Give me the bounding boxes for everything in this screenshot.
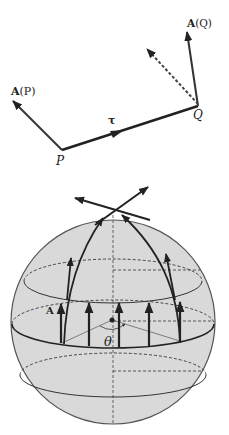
top-vector-diagram: A(P) A(Q) P Q τ — [10, 17, 212, 168]
label-Q: Q — [193, 108, 203, 122]
vector-A-P — [13, 101, 62, 150]
label-theta: θ — [104, 334, 112, 349]
sphere-diagram: A θ — [11, 187, 215, 424]
tau-arrowhead-icon — [110, 130, 124, 138]
label-A-sphere: A — [45, 305, 54, 316]
vector-A-Q — [187, 32, 198, 106]
label-A-P: A(P) — [10, 85, 36, 98]
label-A-Q: A(Q) — [186, 17, 212, 29]
sphere-center-dot — [110, 318, 115, 323]
vector-tau — [62, 106, 198, 150]
label-P: P — [55, 154, 65, 168]
parallel-transport-figure: A(P) A(Q) P Q τ — [0, 0, 229, 435]
pole-arrow-left — [75, 198, 150, 220]
label-tau: τ — [108, 114, 115, 127]
